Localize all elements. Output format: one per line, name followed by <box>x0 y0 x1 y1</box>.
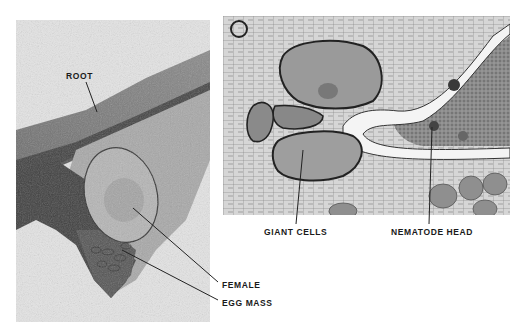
giant-cells-label: GIANT CELLS <box>264 227 327 237</box>
root-label: ROOT <box>66 71 93 81</box>
egg-mass-label: EGG MASS <box>222 298 273 308</box>
root-micrograph <box>16 20 210 322</box>
section-micrograph-image <box>223 16 510 215</box>
female-label: FEMALE <box>222 280 261 290</box>
section-micrograph <box>223 16 510 215</box>
root-micrograph-image <box>16 20 210 322</box>
nematode-head-label: NEMATODE HEAD <box>391 227 473 237</box>
